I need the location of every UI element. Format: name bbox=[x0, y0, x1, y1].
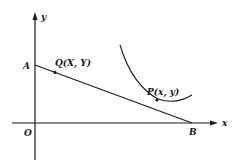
point-q-marker bbox=[53, 71, 56, 74]
origin-label: O bbox=[24, 128, 32, 138]
x-axis-arrow-icon bbox=[210, 121, 218, 126]
point-b-label: B bbox=[188, 127, 197, 137]
point-a-label: A bbox=[22, 61, 30, 71]
y-axis-label: y bbox=[40, 12, 47, 22]
y-axis-arrow-icon bbox=[33, 12, 38, 20]
point-p-label: P(x, y) bbox=[146, 87, 179, 98]
point-q-label: Q(X, Y) bbox=[55, 58, 91, 69]
x-axis-label: x bbox=[221, 118, 228, 128]
diagram-canvas: y x O A B Q(X, Y) P(x, y) bbox=[0, 0, 235, 165]
point-p-marker bbox=[155, 98, 158, 101]
